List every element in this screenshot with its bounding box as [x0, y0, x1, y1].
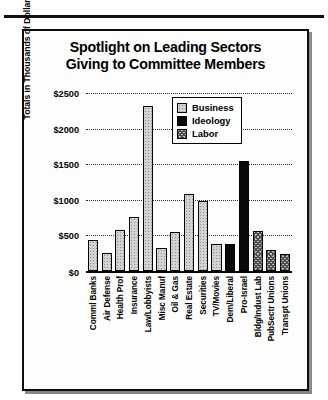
x-axis-label-slot: Air Defense	[100, 274, 114, 386]
x-axis-label-slot: Transpt Unions	[278, 274, 292, 386]
chart-title: Spotlight on Leading Sectors Giving to C…	[24, 39, 307, 73]
bar-slot	[141, 93, 155, 271]
y-axis-tick-label: $1000	[53, 196, 79, 206]
bar	[88, 240, 98, 271]
bar-slot	[278, 93, 292, 271]
legend-item: Labor	[177, 127, 234, 140]
bar-slot	[265, 93, 279, 271]
x-axis-tick-label: Misc Manuf	[157, 276, 167, 320]
x-axis-tick-label: Dem/Liberal	[225, 276, 235, 322]
bar-slot	[86, 93, 100, 271]
legend-item: Business	[177, 101, 234, 114]
x-axis-tick-label: Oil & Gas	[170, 276, 180, 312]
legend-swatch-icon	[177, 116, 187, 126]
bar	[129, 217, 139, 271]
x-axis-tick-label: Health Prof	[115, 276, 125, 319]
legend-swatch-icon	[177, 129, 187, 139]
chart-legend: BusinessIdeologyLabor	[172, 97, 242, 144]
x-axis-tick-label: TV/Movies	[211, 276, 221, 316]
chart-figure: Spotlight on Leading Sectors Giving to C…	[22, 29, 309, 391]
bar-slot	[113, 93, 127, 271]
bar	[115, 230, 125, 271]
bar	[198, 201, 208, 271]
legend-item: Ideology	[177, 114, 234, 127]
x-axis-label-slot: Dem/Liberal	[223, 274, 237, 386]
x-axis-tick-label: Securities	[198, 276, 208, 315]
x-axis-tick-label: Comml Banks	[88, 276, 98, 330]
x-axis-label-slot: Oil & Gas	[168, 274, 182, 386]
bar-slot	[127, 93, 141, 271]
bar	[280, 254, 290, 271]
x-axis-labels: Comml BanksAir DefenseHealth ProfInsuran…	[86, 274, 292, 386]
bar	[239, 161, 249, 271]
y-axis-tick-label: $2500	[53, 89, 79, 99]
x-axis-label-slot: PubSectr Unions	[265, 274, 279, 386]
y-axis-title: Totals in Thousands of Dollars	[22, 0, 32, 127]
x-axis-tick-label: Law/Lobbyists	[143, 276, 153, 332]
legend-item-label: Ideology	[192, 115, 231, 126]
x-axis-label-slot: Health Prof	[113, 274, 127, 386]
x-axis-label-slot: Comml Banks	[86, 274, 100, 386]
x-axis-label-slot: Law/Lobbyists	[141, 274, 155, 386]
x-axis-label-slot: Bldg/Indust Lab	[251, 274, 265, 386]
x-axis-tick-label: Insurance	[129, 276, 139, 314]
y-axis-tick-label: $2000	[53, 125, 79, 135]
y-axis-tick-label: $500	[59, 231, 79, 241]
x-axis-tick-label: Real Estate	[184, 276, 194, 320]
x-axis-tick-label: Pro-Israel	[239, 276, 249, 313]
x-axis-tick-label: Bldg/Indust Lab	[253, 276, 263, 337]
legend-item-label: Business	[192, 102, 234, 113]
x-axis-label-slot: Insurance	[127, 274, 141, 386]
x-axis-label-slot: TV/Movies	[210, 274, 224, 386]
y-axis-tick-label: $1500	[53, 160, 79, 170]
bar	[184, 194, 194, 271]
bar	[266, 250, 276, 271]
x-axis-label-slot: Real Estate	[182, 274, 196, 386]
bar	[211, 244, 221, 271]
legend-item-label: Labor	[192, 128, 218, 139]
bar	[143, 106, 153, 271]
legend-swatch-icon	[177, 103, 187, 113]
bar-slot	[155, 93, 169, 271]
bar	[102, 253, 112, 272]
page-top-rule	[4, 15, 324, 18]
x-axis-tick-label: Air Defense	[102, 276, 112, 321]
bar	[156, 248, 166, 271]
chart-title-line-2: Giving to Committee Members	[24, 56, 307, 73]
x-axis-label-slot: Pro-Israel	[237, 274, 251, 386]
bar-slot	[100, 93, 114, 271]
y-axis-tick-label: $0	[69, 268, 79, 278]
axis-baseline: $0	[86, 271, 292, 273]
bar	[225, 244, 235, 271]
x-axis-tick-label: PubSectr Unions	[266, 276, 276, 341]
chart-title-line-1: Spotlight on Leading Sectors	[24, 39, 307, 56]
bar	[170, 232, 180, 271]
x-axis-label-slot: Securities	[196, 274, 210, 386]
x-axis-label-slot: Misc Manuf	[155, 274, 169, 386]
bar-slot	[251, 93, 265, 271]
bar	[253, 231, 263, 271]
x-axis-tick-label: Transpt Unions	[280, 276, 290, 335]
